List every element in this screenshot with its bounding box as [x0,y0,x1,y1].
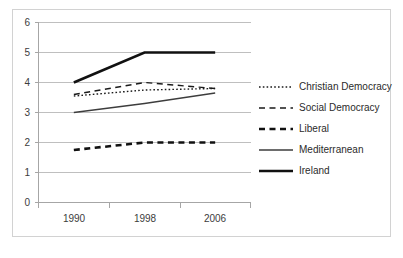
legend-label: Liberal [299,123,329,135]
legend-swatch-christian-democracy [258,81,294,93]
y-tick-label: 1 [24,167,30,178]
y-tick-label: 6 [24,17,30,28]
chart-legend: Christian Democracy Social Democracy Lib… [258,76,386,181]
y-tickmarks [35,23,39,203]
x-tick-label: 2006 [204,213,227,224]
legend-swatch-liberal [258,123,294,135]
series-line-ireland [74,53,215,83]
series-line-christian-democracy [74,89,215,97]
legend-swatch-mediterranean [258,144,294,156]
gridlines [39,23,251,173]
legend-item-liberal[interactable]: Liberal [258,118,386,139]
legend-label: Ireland [299,165,330,177]
y-tick-label: 4 [24,77,30,88]
legend-item-christian-democracy[interactable]: Christian Democracy [258,76,386,97]
legend-swatch-ireland [258,165,294,177]
y-tick-label: 3 [24,107,30,118]
chart-figure: 6 5 4 3 2 1 0 1990 1998 2006 Christian D… [0,0,403,258]
y-tick-label: 0 [24,197,30,208]
series-layer [74,53,215,151]
legend-label: Mediterranean [299,144,363,156]
x-tickmarks [39,203,251,208]
series-line-liberal [74,143,215,151]
legend-item-ireland[interactable]: Ireland [258,160,386,181]
y-tick-label: 5 [24,47,30,58]
legend-label: Christian Democracy [299,81,392,93]
legend-label: Social Democracy [299,102,380,114]
x-tick-labels: 1990 1998 2006 [63,213,227,224]
y-tick-labels: 6 5 4 3 2 1 0 [24,17,30,208]
series-line-social-democracy [74,83,215,95]
legend-swatch-social-democracy [258,102,294,114]
series-line-mediterranean [74,93,215,113]
y-tick-label: 2 [24,137,30,148]
legend-item-social-democracy[interactable]: Social Democracy [258,97,386,118]
x-tick-label: 1990 [63,213,86,224]
x-tick-label: 1998 [134,213,157,224]
legend-item-mediterranean[interactable]: Mediterranean [258,139,386,160]
